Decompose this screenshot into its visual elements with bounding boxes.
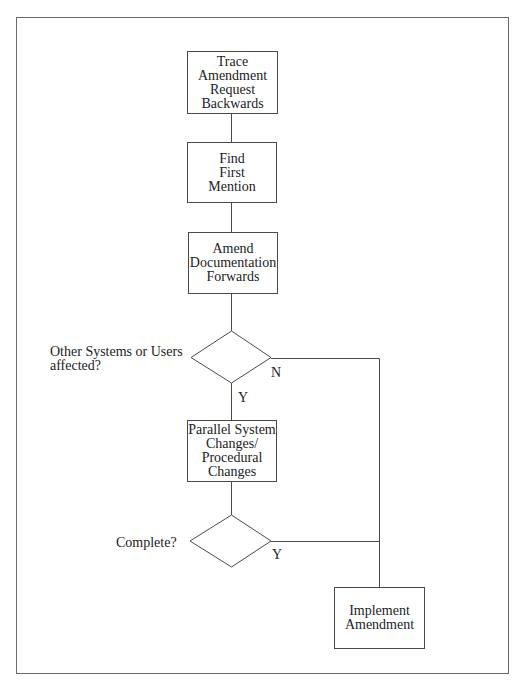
edge-decision1-implement	[271, 359, 380, 588]
node-parallel-system-changes: Parallel System Changes/ Procedural Chan…	[187, 420, 277, 482]
node-text: Amend Documentation Forwards	[190, 242, 276, 284]
decision2-diamond	[190, 515, 271, 567]
node-text: Implement Amendment	[345, 604, 414, 632]
decision1-yes-label: Y	[238, 391, 248, 405]
node-text: Find First Mention	[208, 152, 255, 194]
node-text: Trace Amendment Request Backwards	[198, 55, 267, 111]
decision2-question: Complete?	[116, 536, 177, 550]
node-trace-amendment: Trace Amendment Request Backwards	[187, 51, 278, 114]
node-find-first-mention: Find First Mention	[187, 142, 277, 203]
decision1-question: Other Systems or Users affected?	[50, 345, 183, 373]
node-text: Parallel System Changes/ Procedural Chan…	[188, 423, 276, 479]
decision1-diamond	[191, 331, 271, 383]
node-implement-amendment: Implement Amendment	[334, 587, 425, 649]
node-amend-documentation: Amend Documentation Forwards	[188, 232, 278, 294]
decision2-yes-label: Y	[272, 548, 282, 562]
decision1-no-label: N	[271, 366, 281, 380]
